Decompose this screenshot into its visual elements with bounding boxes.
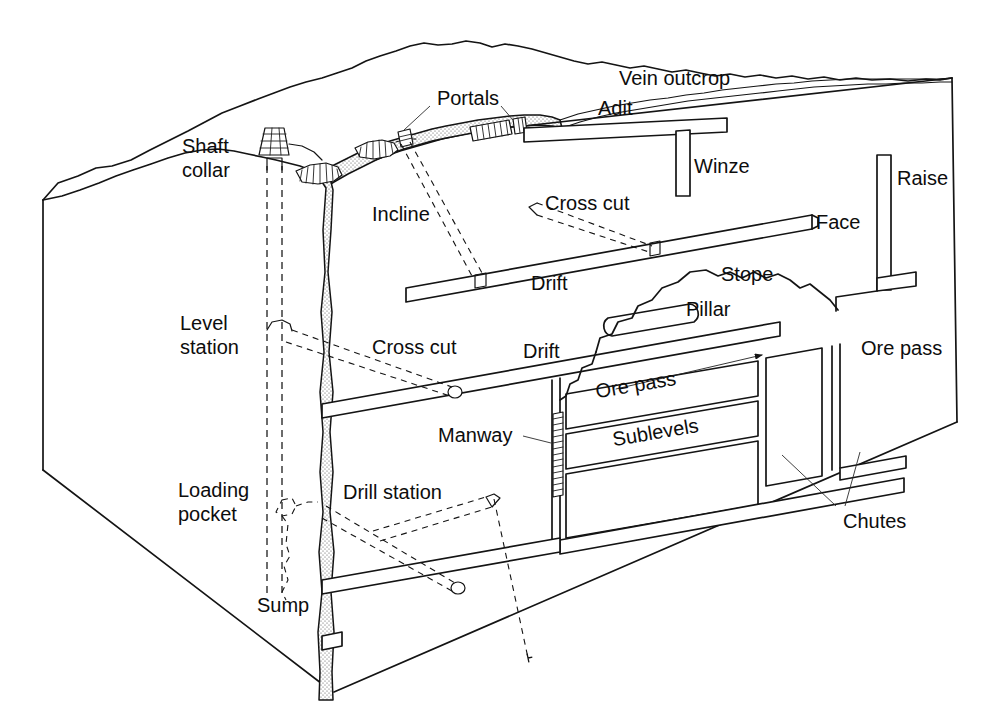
block-rear-right-edge xyxy=(524,78,952,126)
label-ore-pass-inner: Ore pass xyxy=(594,367,678,402)
label-incline: Incline xyxy=(372,203,430,225)
label-winze: Winze xyxy=(694,155,750,177)
label-face: Face xyxy=(816,211,860,233)
label-cross-cut-lower: Cross cut xyxy=(372,336,457,358)
label-level-station-line2: station xyxy=(180,336,239,358)
label-cross-cut-upper: Cross cut xyxy=(545,192,630,214)
labels-group: Vein outcrop Portals Adit Winze Raise Sh… xyxy=(178,67,948,616)
surface-building-1 xyxy=(296,163,342,184)
level-station-pocket xyxy=(267,320,292,331)
raise-base-connector xyxy=(836,291,877,311)
label-pillar: Pillar xyxy=(686,298,731,320)
label-level-station-line1: Level xyxy=(180,312,228,334)
upper-crosscut-b xyxy=(537,215,652,253)
headframe-icon xyxy=(259,128,289,155)
vein-in-section-group xyxy=(318,176,334,700)
loading-pocket-chute xyxy=(296,502,318,506)
middle-level-group xyxy=(286,270,906,554)
label-loading-pocket-line2: pocket xyxy=(178,503,237,525)
sump-outline xyxy=(282,516,290,600)
label-adit: Adit xyxy=(598,97,633,119)
label-stope: Stope xyxy=(721,263,773,285)
upper-crosscut-end-cap xyxy=(529,203,537,215)
ore-pass-cell-right xyxy=(766,348,822,486)
label-portals: Portals xyxy=(437,87,499,109)
leader-manway xyxy=(523,436,551,443)
bottom-level-group xyxy=(322,494,560,658)
label-loading-pocket-line1: Loading xyxy=(178,479,249,501)
loading-pocket-outline xyxy=(276,498,296,516)
drill-station-end-cap xyxy=(486,494,500,507)
mine-diagram-svg: Vein outcrop Portals Adit Winze Raise Sh… xyxy=(0,0,986,718)
ore-pass-bottom-drift xyxy=(840,456,906,480)
label-drill-station: Drill station xyxy=(343,481,442,503)
winze-shaft xyxy=(676,130,690,196)
pillar-shape xyxy=(604,304,698,336)
label-drift-middle: Drift xyxy=(523,340,560,362)
surface-road xyxy=(289,144,322,160)
main-shaft-group xyxy=(267,166,318,600)
vein-section-band xyxy=(318,176,334,700)
label-sump: Sump xyxy=(257,594,309,616)
upper-drift xyxy=(406,215,812,302)
leader-portals-left xyxy=(404,106,430,130)
label-manway: Manway xyxy=(438,424,512,446)
label-chutes: Chutes xyxy=(843,510,906,532)
bottom-haulage-drift xyxy=(322,538,560,594)
middle-drift-junction-ring xyxy=(448,386,462,398)
exploration-borehole xyxy=(494,499,528,658)
label-drift-upper: Drift xyxy=(531,272,568,294)
label-raise: Raise xyxy=(897,167,948,189)
label-ore-pass-right: Ore pass xyxy=(861,337,942,359)
raise-shaft xyxy=(877,155,891,290)
label-shaft-collar-line2: collar xyxy=(182,159,230,181)
block-right-edge xyxy=(952,78,957,422)
bottom-drift-junction-ring xyxy=(451,582,465,594)
shaft-bottom-drift xyxy=(322,632,342,650)
mine-block-diagram: Vein outcrop Portals Adit Winze Raise Sh… xyxy=(0,0,986,718)
surface-structures-group xyxy=(259,117,527,184)
surface-building-2 xyxy=(355,140,398,159)
block-bottom-front-edge xyxy=(334,422,957,692)
label-shaft-collar-line1: Shaft xyxy=(182,135,229,157)
label-vein-outcrop: Vein outcrop xyxy=(619,67,730,89)
manway-ladder xyxy=(553,412,563,497)
